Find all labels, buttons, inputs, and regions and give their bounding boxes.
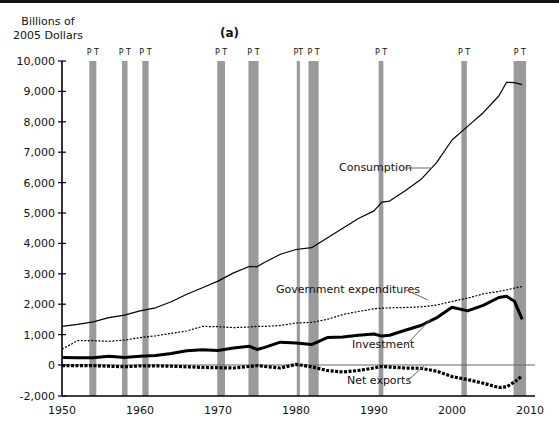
recession-pt-label: P T: [458, 48, 470, 57]
x-tick-label: 1980: [282, 404, 310, 417]
series-investment: [62, 296, 522, 357]
y-tick-label: -2,000: [20, 390, 55, 403]
x-tick-label: 1950: [48, 404, 76, 417]
y-tick-label: 4,000: [24, 237, 56, 250]
y-tick-label: 0: [48, 359, 55, 372]
annotation-label: Investment: [352, 338, 415, 351]
y-tick-label: 1,000: [24, 329, 56, 342]
x-tick-label: 2010: [516, 404, 544, 417]
y-tick-label: 3,000: [24, 268, 56, 281]
recession-pt-label: P T: [215, 48, 227, 57]
x-tick-label: 1970: [204, 404, 232, 417]
y-tick-label: 5,000: [24, 207, 56, 220]
recession-bar: [89, 61, 96, 396]
recession-pt-label: PT: [293, 48, 303, 57]
recession-bar: [142, 61, 148, 396]
annotation-label: Government expenditures: [276, 283, 420, 296]
recession-pt-label: P T: [247, 48, 259, 57]
recession-bar: [217, 61, 225, 396]
recession-pt-label: P T: [87, 48, 99, 57]
series-lines: [62, 82, 522, 387]
y-axis-label-line2: 2005 Dollars: [13, 29, 83, 42]
annotation-label: Net exports: [347, 374, 411, 387]
y-tick-label: 6,000: [24, 177, 56, 190]
recession-bar: [514, 61, 526, 396]
recession-labels: P TP TP TP TP TPTP TP TP TP T: [87, 48, 526, 57]
series-net-exports: [62, 364, 522, 387]
y-tick-label: 9,000: [24, 85, 56, 98]
recession-bar: [297, 61, 300, 396]
y-tick-label: 2,000: [24, 298, 56, 311]
annotation-label: Consumption: [339, 161, 412, 174]
chart: P TP TP TP TP TPTP TP TP TP T 10,0009,00…: [0, 0, 559, 429]
recession-pt-label: P T: [514, 48, 526, 57]
y-tick-label: 8,000: [24, 116, 56, 129]
y-tick-label: 7,000: [24, 146, 56, 159]
y-tick-label: 10,000: [17, 55, 56, 68]
x-tick-label: 2000: [438, 404, 466, 417]
recession-bars: [89, 61, 526, 396]
chart-title: (a): [220, 26, 239, 40]
recession-pt-label: P T: [119, 48, 131, 57]
recession-pt-label: P T: [307, 48, 319, 57]
recession-pt-label: P T: [139, 48, 151, 57]
annotation-leader: [406, 320, 430, 345]
recession-pt-label: P T: [375, 48, 387, 57]
x-tick-label: 1990: [360, 404, 388, 417]
x-tick-label: 1960: [126, 404, 154, 417]
recession-bar: [461, 61, 466, 396]
y-axis-label-line1: Billions of: [21, 15, 75, 28]
recession-bar: [122, 61, 127, 396]
